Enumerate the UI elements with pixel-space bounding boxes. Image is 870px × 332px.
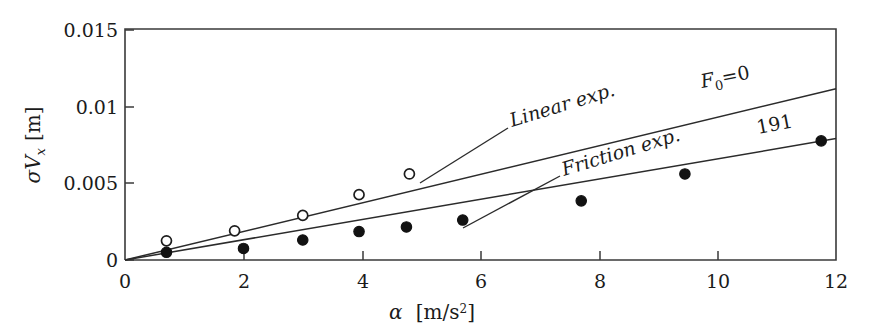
y-axis-label-units: [m] bbox=[21, 106, 45, 141]
x-tick-label-4: 4 bbox=[357, 270, 369, 292]
x-tick-label-6: 6 bbox=[475, 270, 487, 292]
data-point-filled bbox=[816, 136, 826, 146]
y-tick-label-0: 0 bbox=[106, 249, 118, 271]
x-axis-label-symbol: α bbox=[389, 300, 403, 324]
x-axis-ticks bbox=[244, 251, 718, 260]
x-tick-label-10: 10 bbox=[706, 270, 730, 292]
x-axis-label-units: [m/s bbox=[416, 300, 460, 324]
data-point-filled bbox=[401, 222, 411, 232]
data-point-filled bbox=[576, 196, 586, 206]
y-axis-label-subscript: x bbox=[33, 147, 48, 155]
data-point-filled bbox=[298, 235, 308, 245]
y-tick-label-0.005: 0.005 bbox=[64, 172, 118, 194]
svg-text:σVx[m]: σVx[m] bbox=[21, 106, 48, 183]
data-point-open bbox=[404, 169, 414, 179]
annotation-191: 191 bbox=[755, 109, 795, 138]
annotation-f0-rest: =0 bbox=[720, 61, 752, 88]
data-point-open bbox=[298, 210, 308, 220]
data-point-filled bbox=[458, 215, 468, 225]
x-tick-label-2: 2 bbox=[238, 270, 250, 292]
x-tick-label-8: 8 bbox=[594, 270, 606, 292]
svg-text:α [m/s2]: α [m/s2] bbox=[389, 300, 475, 324]
annotation-linear-exp: Linear exp. bbox=[506, 78, 617, 131]
x-tick-label-0: 0 bbox=[119, 270, 131, 292]
chart-figure: 0.015 0.01 0.005 0 0 2 4 6 8 10 12 α [m/… bbox=[0, 0, 870, 332]
y-tick-label-0.015: 0.015 bbox=[64, 19, 118, 41]
leader-line-friction-exp bbox=[463, 176, 560, 228]
fit-line-friction-exp bbox=[125, 139, 836, 260]
data-point-open bbox=[161, 236, 171, 246]
x-axis-label: α [m/s2] bbox=[389, 300, 475, 324]
data-point-filled bbox=[238, 243, 248, 253]
data-point-open bbox=[230, 226, 240, 236]
annotation-f0-equals-0: F0=0 bbox=[698, 61, 753, 96]
data-point-filled bbox=[680, 169, 690, 179]
x-tick-label-12: 12 bbox=[824, 270, 848, 292]
data-point-filled bbox=[161, 247, 171, 257]
y-tick-label-0.01: 0.01 bbox=[76, 96, 118, 118]
series-linear-exp-points bbox=[161, 169, 414, 246]
data-point-filled bbox=[354, 226, 364, 236]
y-axis-label: σVx[m] bbox=[21, 106, 48, 183]
y-axis-ticks bbox=[125, 30, 134, 260]
leader-line-linear-exp bbox=[420, 128, 508, 183]
data-point-open bbox=[354, 190, 364, 200]
y-axis-label-symbol: σV bbox=[21, 153, 45, 184]
chart-svg: 0.015 0.01 0.005 0 0 2 4 6 8 10 12 α [m/… bbox=[0, 0, 870, 332]
